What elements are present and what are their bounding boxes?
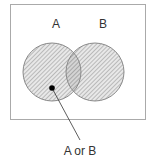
pointer-dot [49, 85, 55, 91]
set-a-label: A [52, 17, 60, 31]
annotation-label: A or B [64, 144, 97, 158]
set-b-label: B [99, 17, 107, 31]
venn-diagram: A B A or B [0, 0, 156, 161]
